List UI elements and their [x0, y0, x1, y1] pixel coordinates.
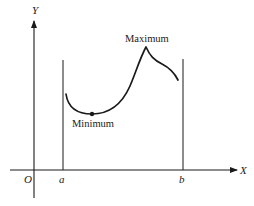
maximum-label: Maximum: [125, 33, 169, 44]
minimum-label: Minimum: [72, 118, 114, 129]
boundary-label-a: a: [59, 173, 65, 185]
boundary-label-b: b: [179, 173, 185, 185]
x-axis-label: X: [239, 164, 248, 176]
function-curve: [66, 47, 178, 114]
extrema-diagram: Y X O a b Minimum Maximum: [0, 0, 254, 206]
origin-label: O: [24, 173, 32, 185]
y-axis-label: Y: [32, 4, 40, 16]
minimum-point-marker: [90, 112, 94, 116]
